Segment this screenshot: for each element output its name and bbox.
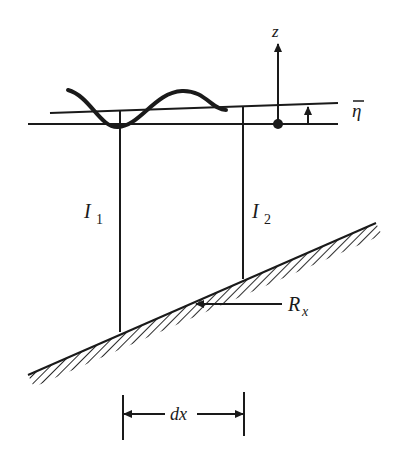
svg-text:R: R xyxy=(287,293,300,315)
section-2-label: I 2 xyxy=(251,200,271,227)
dx-label: dx xyxy=(170,404,187,424)
origin-dot xyxy=(273,119,283,129)
bottom-stress-label: R x xyxy=(287,293,309,319)
svg-text:I: I xyxy=(83,200,92,222)
svg-text:I: I xyxy=(251,200,260,222)
mean-level-label: η xyxy=(352,100,364,121)
svg-text:η: η xyxy=(352,100,361,121)
svg-text:2: 2 xyxy=(264,212,271,227)
svg-text:1: 1 xyxy=(96,212,103,227)
z-axis-label: z xyxy=(271,22,279,41)
svg-text:x: x xyxy=(301,304,309,319)
bed-line xyxy=(28,223,376,375)
diagram-canvas: z η I 1 I 2 R x dx xyxy=(0,0,407,467)
section-1-label: I 1 xyxy=(83,200,103,227)
